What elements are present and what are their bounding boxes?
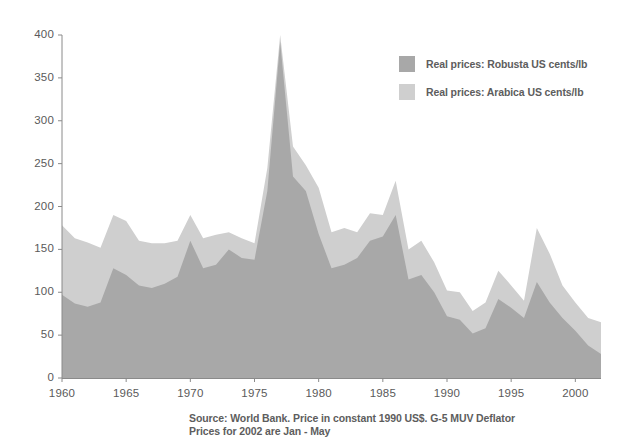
x-tick-1990: 1990 bbox=[425, 387, 469, 399]
legend-swatch-arabica bbox=[399, 84, 415, 100]
y-tick-350: 350 bbox=[20, 71, 54, 83]
x-tick-1965: 1965 bbox=[104, 387, 148, 399]
x-tick-1975: 1975 bbox=[233, 387, 277, 399]
footnote-source-line: Source: World Bank. Price in constant 19… bbox=[189, 412, 609, 425]
legend-label-arabica: Real prices: Arabica US cents/lb bbox=[426, 86, 583, 98]
footnote-note-line: Prices for 2002 are Jan - May bbox=[189, 425, 609, 438]
x-tick-1970: 1970 bbox=[168, 387, 212, 399]
y-tick-400: 400 bbox=[20, 28, 54, 40]
x-tick-1980: 1980 bbox=[297, 387, 341, 399]
y-tick-0: 0 bbox=[20, 371, 54, 383]
y-tick-200: 200 bbox=[20, 200, 54, 212]
x-tick-1985: 1985 bbox=[361, 387, 405, 399]
chart-container: 400350300250200150100500 196019651970197… bbox=[0, 0, 626, 443]
y-tick-150: 150 bbox=[20, 242, 54, 254]
legend-item-robusta: Real prices: Robusta US cents/lb bbox=[399, 56, 614, 72]
y-tick-300: 300 bbox=[20, 114, 54, 126]
legend-item-arabica: Real prices: Arabica US cents/lb bbox=[399, 84, 614, 100]
x-tick-1995: 1995 bbox=[489, 387, 533, 399]
chart-footnote: Source: World Bank. Price in constant 19… bbox=[189, 412, 609, 438]
y-tick-50: 50 bbox=[20, 328, 54, 340]
legend-swatch-robusta bbox=[399, 56, 415, 72]
x-tick-1960: 1960 bbox=[40, 387, 84, 399]
chart-legend: Real prices: Robusta US cents/lb Real pr… bbox=[399, 56, 614, 112]
y-tick-250: 250 bbox=[20, 157, 54, 169]
x-tick-2000: 2000 bbox=[553, 387, 597, 399]
legend-label-robusta: Real prices: Robusta US cents/lb bbox=[426, 58, 587, 70]
y-tick-100: 100 bbox=[20, 285, 54, 297]
